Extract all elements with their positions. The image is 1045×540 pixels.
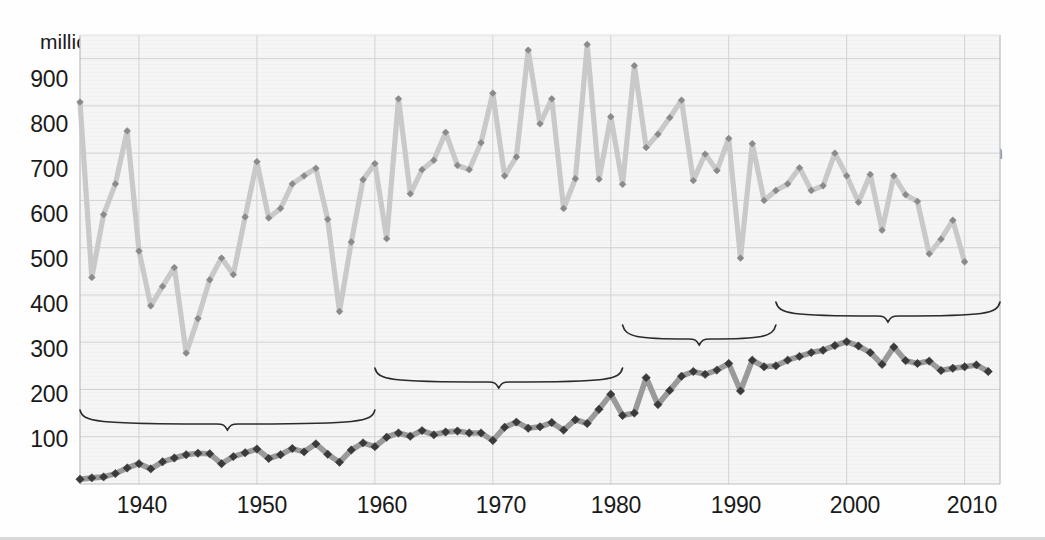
chart-figure: million cases 900 800 700 600 500 400 30…: [0, 0, 1045, 540]
chart-canvas: [0, 0, 1045, 540]
